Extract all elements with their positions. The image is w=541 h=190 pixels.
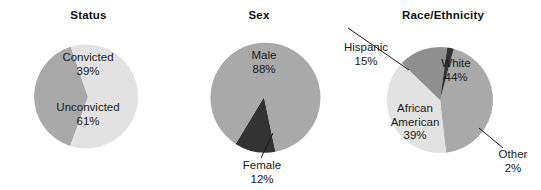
chart-panel-race-ethnicity: Race/Ethnicity White 44% African America… — [341, 0, 541, 190]
pie-label-male-name: Male — [214, 49, 314, 63]
pie-label-female-name: Female — [221, 159, 303, 173]
pie-label-unconvicted: Unconvicted 61% — [23, 101, 153, 128]
pie-label-hispanic: Hispanic 15% — [335, 41, 397, 68]
pie-label-other-value: 2% — [487, 162, 539, 176]
pie-label-female: Female 12% — [221, 159, 303, 186]
pie-label-white-name: White — [416, 57, 496, 71]
pie-label-male-value: 88% — [214, 63, 314, 77]
chart-panel-sex: Sex Male 88% Female 12% — [177, 0, 341, 190]
pie-status — [0, 0, 177, 190]
pie-label-unconvicted-name: Unconvicted — [23, 101, 153, 115]
pie-label-african-american-value: 39% — [369, 129, 461, 143]
pie-label-african-american-line1: African — [369, 102, 461, 116]
pie-label-hispanic-value: 15% — [335, 55, 397, 69]
pie-label-female-value: 12% — [221, 173, 303, 187]
pie-label-convicted: Convicted 39% — [30, 51, 146, 78]
pie-label-hispanic-name: Hispanic — [335, 41, 397, 55]
pie-label-convicted-value: 39% — [30, 65, 146, 79]
pie-label-male: Male 88% — [214, 49, 314, 76]
pie-label-convicted-name: Convicted — [30, 51, 146, 65]
pie-label-white-value: 44% — [416, 71, 496, 85]
pie-label-other: Other 2% — [487, 148, 539, 175]
callout-line-other — [479, 128, 503, 148]
pie-label-unconvicted-value: 61% — [23, 115, 153, 129]
pie-chart-figure: Status Convicted 39% Unconvicted 61% Sex — [0, 0, 541, 190]
pie-label-african-american-line2: American — [369, 116, 461, 130]
pie-label-other-name: Other — [487, 148, 539, 162]
pie-label-african-american: African American 39% — [369, 102, 461, 143]
chart-panel-status: Status Convicted 39% Unconvicted 61% — [0, 0, 177, 190]
pie-label-white: White 44% — [416, 57, 496, 84]
